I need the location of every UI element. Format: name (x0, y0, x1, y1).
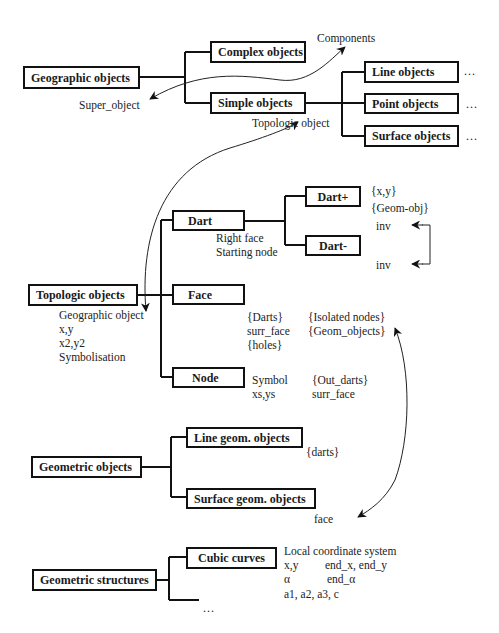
label-darts: {darts} (306, 445, 339, 459)
attr-holes: {holes} (247, 338, 290, 352)
attr-cubic-xy: x,y (284, 558, 298, 572)
attr-xy-set: {x,y} (371, 183, 429, 200)
ellipsis-surface-objects: ... (466, 129, 478, 144)
node-geometric-objects: Geometric objects (31, 456, 142, 478)
attr-starting-node: Starting node (216, 245, 278, 259)
attr-alpha: α (284, 572, 290, 586)
attr-x2y2: x2,y2 (59, 336, 144, 350)
node-geometric-structures: Geometric structures (32, 569, 157, 591)
attr-symbol: Symbol (252, 373, 288, 387)
dart-plus-attributes: {x,y} {Geom-obj} (371, 183, 429, 217)
attr-xy: x,y (59, 322, 144, 336)
ellipsis-line-objects: ... (464, 64, 476, 79)
node-geographic-objects: Geographic objects (23, 66, 140, 89)
label-components: Components (317, 31, 375, 45)
ellipsis-point-objects: ... (466, 97, 478, 112)
attr-surr-face: surr_face (247, 324, 290, 338)
attr-geom-objects: {Geom_objects} (308, 324, 385, 338)
node-point-objects: Point objects (364, 93, 459, 114)
label-inv-top: inv (376, 219, 391, 233)
face-attributes-col1: {Darts} surr_face {holes} (247, 310, 290, 352)
face-attributes-col2: {Isolated nodes} {Geom_objects} (308, 310, 385, 338)
node-dart-minus: Dart- (305, 235, 361, 256)
label-super-object: Super_object (79, 98, 140, 112)
node-simple-objects: Simple objects (210, 92, 306, 114)
attr-out-darts: {Out_darts} (312, 373, 368, 387)
dart-attributes: Right face Starting node (216, 231, 278, 259)
node-face: Face (172, 284, 245, 305)
topologic-objects-attributes: Geographic object x,y x2,y2 Symbolisatio… (59, 308, 144, 364)
node-line-geom-objects: Line geom. objects (186, 427, 303, 448)
node-surface-geom-objects: Surface geom. objects (186, 488, 316, 509)
attr-isolated-nodes: {Isolated nodes} (308, 310, 385, 324)
node-line-objects: Line objects (364, 61, 459, 83)
attr-local-coordinate-system: Local coordinate system (284, 544, 396, 558)
attr-geom-obj: {Geom-obj} (371, 200, 429, 217)
attr-geographic-object: Geographic object (59, 308, 144, 322)
node-attributes-col1: Symbol xs,ys (252, 373, 288, 401)
diagram-canvas: Geographic objects Complex objects Simpl… (0, 0, 499, 633)
label-inv-bottom: inv (376, 258, 391, 272)
attr-coefficients: a1, a2, a3, c (284, 587, 339, 601)
node-topologic-objects: Topologic objects (28, 284, 138, 306)
attr-xsys: xs,ys (252, 387, 288, 401)
node-complex-objects: Complex objects (210, 41, 306, 63)
attr-node-surr-face: surr_face (312, 387, 368, 401)
label-topologic-object: Topologic object (252, 116, 329, 130)
ellipsis-structures: ... (203, 601, 215, 616)
attr-darts: {Darts} (247, 310, 290, 324)
node-node: Node (172, 367, 245, 388)
node-dart: Dart (172, 210, 245, 231)
attr-symbolisation: Symbolisation (59, 350, 144, 364)
node-attributes-col2: {Out_darts} surr_face (312, 373, 368, 401)
attr-end-alpha: end_α (327, 572, 355, 586)
label-face: face (314, 512, 333, 526)
attr-end-xy: end_x, end_y (325, 558, 387, 572)
node-cubic-curves: Cubic curves (186, 547, 277, 569)
node-surface-objects: Surface objects (364, 125, 459, 147)
attr-right-face: Right face (216, 231, 278, 245)
node-dart-plus: Dart+ (305, 186, 361, 207)
